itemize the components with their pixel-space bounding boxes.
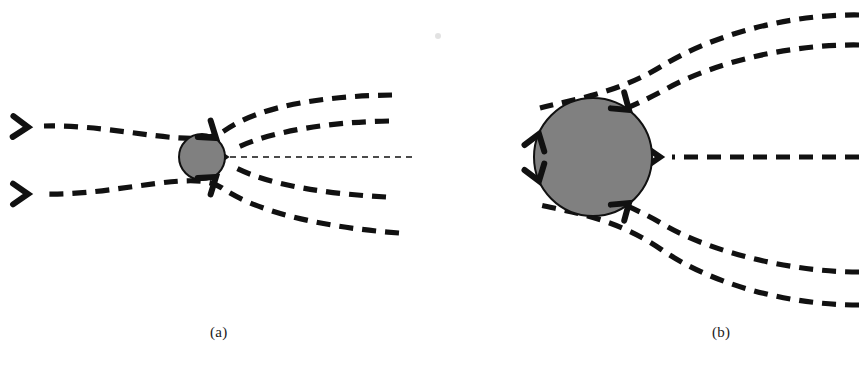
streamline-outer-bottom-arrowhead bbox=[13, 184, 28, 205]
panel-b bbox=[524, 15, 859, 305]
panel-a bbox=[13, 95, 412, 233]
streamline-outer-top-arrowhead bbox=[13, 116, 29, 137]
panel-caption-a: (a) bbox=[210, 324, 228, 341]
streamline-outer-bottom bbox=[540, 205, 859, 305]
streamline-outer-bottom bbox=[44, 181, 399, 233]
streamline-outer-top bbox=[44, 95, 392, 138]
figure-canvas bbox=[0, 0, 859, 373]
streamline-inner-bottom bbox=[620, 203, 859, 272]
streamline-inner-bottom bbox=[236, 168, 386, 197]
streamline-outer-top-arrowhead-barbs bbox=[13, 116, 29, 137]
accreting-body-large bbox=[534, 98, 652, 216]
scan-speck bbox=[435, 33, 441, 39]
streamline-inner-top bbox=[236, 121, 389, 148]
figure-root: (a) (b) bbox=[0, 0, 859, 373]
streamline-inner-top bbox=[620, 45, 859, 111]
streamline-outer-top bbox=[540, 15, 859, 108]
panel-caption-b: (b) bbox=[712, 324, 730, 341]
streamline-outer-bottom-arrowhead-barbs bbox=[13, 184, 28, 205]
diagram-layer bbox=[13, 15, 859, 305]
